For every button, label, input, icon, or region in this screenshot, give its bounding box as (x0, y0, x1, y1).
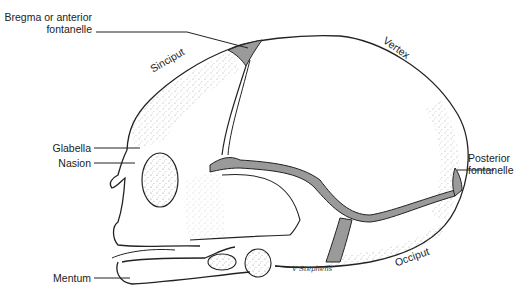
label-bregma: Bregma or anterior fontanelle (0, 11, 92, 35)
label-posterior-fontanelle: Posterior fontanelle (468, 152, 514, 176)
squamosal-suture (210, 158, 455, 222)
mastoid (245, 249, 271, 277)
posterior-fontanelle (453, 168, 462, 196)
artist-signature: V Stephens (292, 265, 332, 273)
label-mentum: Mentum (0, 272, 91, 284)
orbit (142, 153, 178, 207)
tympanic-ring (208, 254, 236, 270)
label-glabella: Glabella (0, 142, 91, 154)
label-nasion: Nasion (0, 157, 91, 169)
